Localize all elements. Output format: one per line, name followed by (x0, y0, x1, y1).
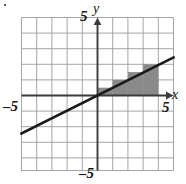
y-axis-label: y (93, 2, 99, 16)
y-axis-tick-label-5: 5 (80, 9, 88, 24)
x-axis-label: x (172, 88, 178, 102)
y-axis-tick-label-neg5: –5 (79, 166, 94, 181)
graph-figure: 5 y –5 5 x –5 (0, 0, 186, 184)
stray-mark (4, 4, 6, 6)
y-axis-arrow (94, 18, 102, 26)
coordinate-plane (0, 0, 186, 184)
x-axis-tick-label-neg5: –5 (3, 99, 18, 114)
x-axis-tick-label-5: 5 (162, 100, 170, 115)
